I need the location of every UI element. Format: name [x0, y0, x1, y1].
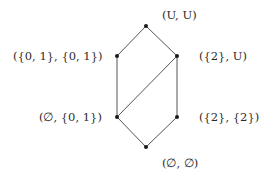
label-left-lower: (∅, {0, 1}): [39, 112, 102, 124]
node-left-upper: [115, 54, 119, 58]
label-right-upper: ({2}, U): [199, 51, 247, 63]
edge-right-lower-bottom: [146, 117, 177, 147]
edge-right-upper-left-lower: [117, 56, 177, 117]
label-left-upper: ({0, 1}, {0, 1}): [13, 51, 102, 63]
edge-top-right-upper: [146, 26, 177, 56]
edge-left-lower-bottom: [117, 117, 146, 147]
hasse-diagram: (U, U) ({0, 1}, {0, 1}) ({2}, U) (∅, {0,…: [0, 0, 270, 179]
diagram-graph: [0, 0, 270, 179]
edge-top-left-upper: [117, 26, 146, 56]
node-top: [144, 24, 148, 28]
node-bottom: [144, 145, 148, 149]
node-left-lower: [115, 115, 119, 119]
edge-group: [117, 26, 177, 147]
label-right-lower: ({2}, {2}): [199, 112, 259, 124]
label-bottom: (∅, ∅): [162, 158, 198, 170]
node-right-upper: [175, 54, 179, 58]
node-right-lower: [175, 115, 179, 119]
label-top: (U, U): [162, 10, 197, 22]
